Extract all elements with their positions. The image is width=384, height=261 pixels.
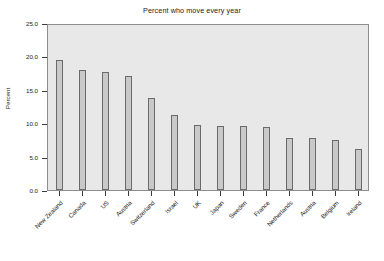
y-axis-tick-label: 5.0	[29, 154, 38, 161]
bar	[217, 126, 224, 190]
y-axis-tick-label: 0.0	[29, 187, 38, 194]
x-axis-tick-mark	[105, 191, 106, 196]
x-axis-tick-mark	[197, 191, 198, 196]
x-axis-tick-mark	[151, 191, 152, 196]
bar	[148, 98, 155, 190]
bar	[79, 70, 86, 190]
x-axis-tick-mark	[128, 191, 129, 196]
y-axis-label: Percent	[4, 79, 11, 119]
y-axis-tick-label: 10.0	[26, 120, 38, 127]
bars-container	[48, 25, 368, 190]
bar	[263, 127, 270, 190]
bar	[332, 140, 339, 190]
x-axis-tick-mark	[220, 191, 221, 196]
y-axis-tick-label: 25.0	[26, 20, 38, 27]
bar	[102, 72, 109, 190]
x-axis-tick-mark	[335, 191, 336, 196]
bar	[355, 149, 362, 190]
bar	[171, 115, 178, 190]
x-axis-tick-mark	[243, 191, 244, 196]
y-axis-tick-mark	[42, 191, 47, 192]
bar	[56, 60, 63, 190]
bar	[286, 138, 293, 190]
plot-area	[47, 24, 369, 191]
bar	[125, 76, 132, 190]
x-axis-tick-mark	[312, 191, 313, 196]
bar-chart: Percent who move every year Percent 0.05…	[0, 0, 384, 261]
x-axis-tick-mark	[266, 191, 267, 196]
y-axis-tick-label: 15.0	[26, 87, 38, 94]
chart-title: Percent who move every year	[0, 6, 384, 15]
x-axis-tick-mark	[358, 191, 359, 196]
bar	[194, 125, 201, 190]
x-axis-tick-mark	[289, 191, 290, 196]
bar	[240, 126, 247, 190]
x-axis-tick-mark	[174, 191, 175, 196]
x-axis-tick-mark	[82, 191, 83, 196]
x-axis-tick-mark	[59, 191, 60, 196]
y-axis-tick-label: 20.0	[26, 53, 38, 60]
bar	[309, 138, 316, 190]
